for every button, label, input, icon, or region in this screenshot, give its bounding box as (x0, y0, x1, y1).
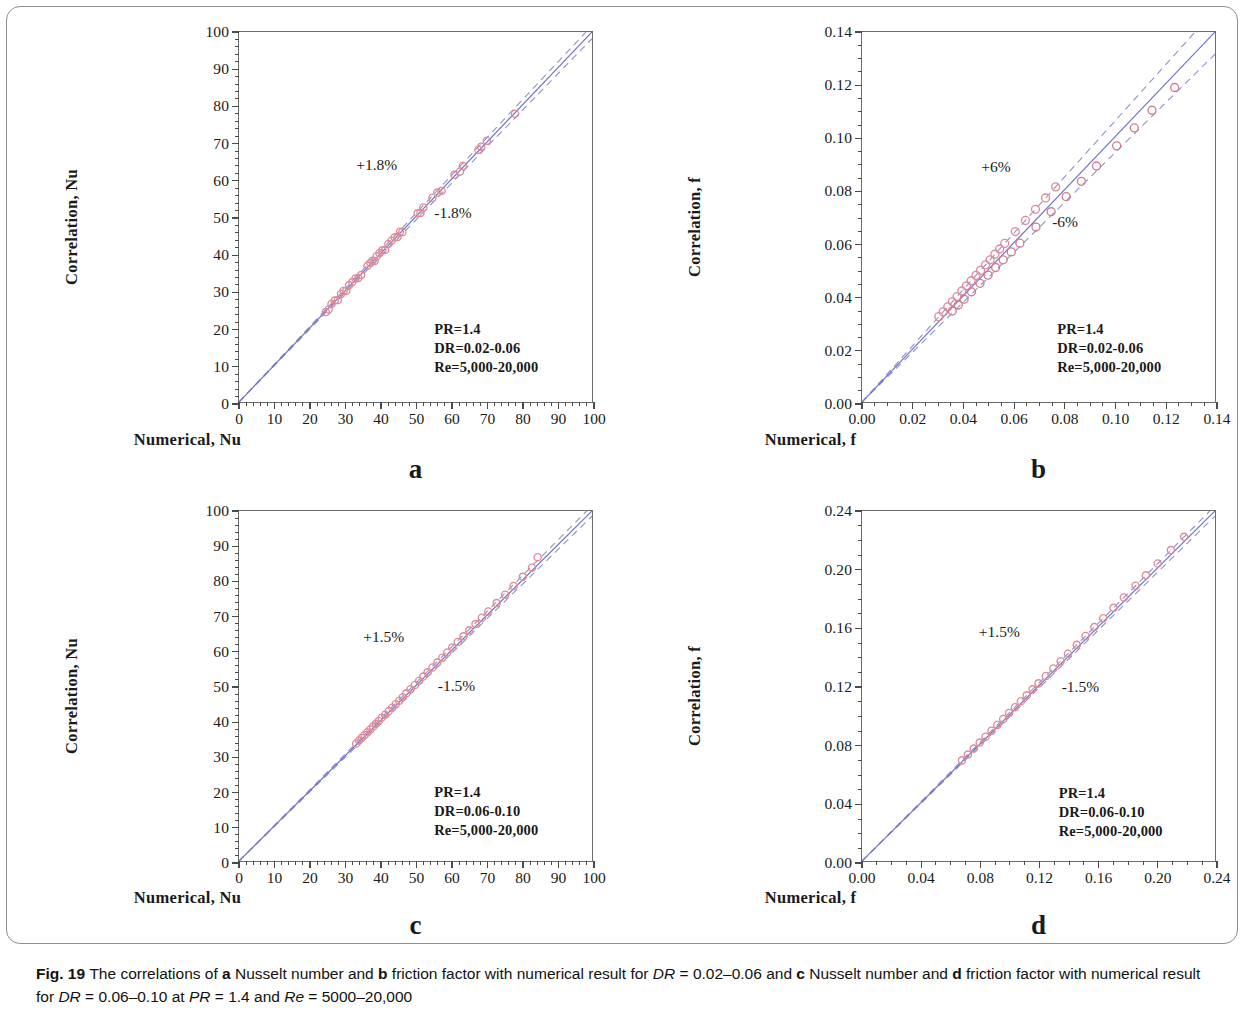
y-tick-minor (858, 178, 862, 179)
y-tick-minor (858, 643, 862, 644)
y-tick-label: 90 (213, 537, 229, 555)
y-tick-minor (235, 672, 239, 673)
parity-line (862, 32, 1215, 402)
x-tick-minor (1178, 402, 1179, 406)
y-tick-minor (235, 113, 239, 114)
caption-run: = 0.06–0.10 at (81, 988, 189, 1005)
y-tick-minor (235, 61, 239, 62)
data-point (1077, 177, 1085, 185)
x-tick-minor (1187, 861, 1188, 865)
x-tick-minor (317, 402, 318, 406)
y-tick-minor (235, 729, 239, 730)
x-tick-major (1115, 402, 1116, 409)
panel-b-x-axis-title: Numerical, f (633, 430, 988, 450)
x-tick-minor (876, 861, 877, 865)
x-tick-major (487, 402, 488, 409)
y-tick-label: 60 (213, 643, 229, 661)
y-tick-minor (235, 637, 239, 638)
panel-d-x-axis-title: Numerical, f (633, 888, 988, 908)
x-tick-minor (388, 861, 389, 865)
y-tick-label: 100 (205, 502, 229, 520)
caption-run: Nusselt number and (231, 965, 378, 982)
y-tick-label: 0 (221, 395, 229, 413)
panel-d-annotation-upper: +1.5% (979, 623, 1020, 641)
y-tick-major (855, 569, 862, 570)
x-tick-minor (1052, 402, 1053, 406)
x-tick-minor (501, 861, 502, 865)
y-tick-major (232, 180, 239, 181)
y-tick-major (855, 686, 862, 687)
x-tick-label: 50 (409, 410, 425, 428)
x-tick-label: 0.04 (908, 869, 935, 887)
y-tick-minor (858, 125, 862, 126)
y-tick-major (232, 581, 239, 582)
caption-run: = 5000–20,000 (304, 988, 412, 1005)
x-tick-label: 0.10 (1102, 410, 1129, 428)
caption-run: b (378, 965, 387, 982)
x-tick-minor (423, 861, 424, 865)
y-tick-major (855, 31, 862, 32)
y-tick-minor (235, 799, 239, 800)
y-tick-minor (235, 136, 239, 137)
x-tick-major (558, 861, 559, 868)
y-tick-minor (235, 381, 239, 382)
x-tick-minor (572, 861, 573, 865)
x-tick-major (912, 402, 913, 409)
info-box-line: PR=1.4 (434, 320, 538, 339)
y-tick-label: 0.20 (824, 561, 852, 579)
x-tick-label: 0.00 (848, 869, 875, 887)
y-tick-major (232, 546, 239, 547)
y-tick-minor (235, 595, 239, 596)
y-tick-minor (235, 173, 239, 174)
x-tick-label: 90 (551, 410, 567, 428)
y-tick-minor (235, 91, 239, 92)
info-box-line: Re=5,000-20,000 (1057, 358, 1161, 377)
x-tick-major (274, 861, 275, 868)
x-tick-label: 30 (338, 869, 354, 887)
y-tick-minor (235, 389, 239, 390)
panel-a: Correlation, Nu 010203040506070809010001… (10, 8, 623, 478)
caption-run: DR (58, 988, 80, 1005)
x-tick-major (309, 402, 310, 409)
x-tick-minor (1191, 402, 1192, 406)
x-tick-minor (352, 861, 353, 865)
y-tick-minor (235, 560, 239, 561)
x-tick-minor (1140, 402, 1141, 406)
y-tick-minor (858, 540, 862, 541)
y-tick-minor (858, 45, 862, 46)
x-tick-minor (423, 402, 424, 406)
y-tick-minor (235, 98, 239, 99)
y-tick-minor (235, 247, 239, 248)
y-tick-major (232, 722, 239, 723)
y-tick-minor (858, 324, 862, 325)
panel-c-y-axis-title: Correlation, Nu (62, 576, 82, 816)
x-tick-minor (331, 861, 332, 865)
y-tick-label: 60 (213, 172, 229, 190)
y-tick-minor (858, 364, 862, 365)
panel-b: Correlation, f 0.000.020.040.060.080.100… (633, 8, 1246, 478)
x-tick-minor (430, 861, 431, 865)
x-tick-major (416, 861, 417, 868)
x-tick-minor (965, 861, 966, 865)
y-tick-major (855, 138, 862, 139)
x-tick-major (238, 402, 239, 409)
data-point (1167, 547, 1174, 554)
x-tick-label: 30 (338, 410, 354, 428)
x-tick-minor (317, 861, 318, 865)
x-tick-major (309, 861, 310, 868)
x-tick-label: 20 (302, 410, 318, 428)
y-tick-label: 0.16 (824, 619, 852, 637)
caption-run: PR (189, 988, 211, 1005)
data-point (1001, 239, 1009, 247)
x-tick-minor (572, 402, 573, 406)
x-tick-major (345, 402, 346, 409)
panel-c-plot-svg (239, 511, 592, 861)
y-tick-minor (235, 715, 239, 716)
x-tick-minor (373, 861, 374, 865)
x-tick-minor (409, 861, 410, 865)
y-tick-major (855, 804, 862, 805)
x-tick-minor (480, 402, 481, 406)
x-tick-label: 0.24 (1203, 869, 1230, 887)
x-tick-minor (515, 861, 516, 865)
x-tick-minor (302, 402, 303, 406)
